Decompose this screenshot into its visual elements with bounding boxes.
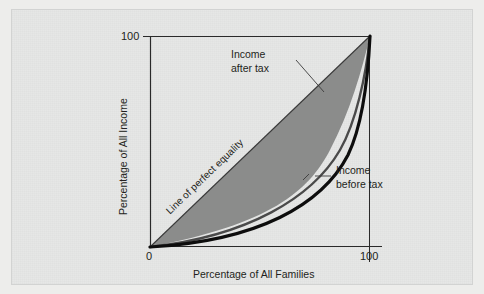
x-axis-title: Percentage of All Families — [193, 268, 314, 280]
y-axis-tick-100: 100 — [121, 30, 139, 42]
after-tax-leader-line — [296, 60, 324, 92]
x-axis-tick-100: 100 — [360, 250, 378, 262]
x-axis-tick-0: 0 — [146, 250, 152, 262]
lorenz-curve-figure: 100 0 100 Percentage of All Income Perce… — [0, 0, 484, 294]
income-after-tax-label-line1: Income — [231, 48, 265, 60]
income-before-tax-label-line2: before tax — [336, 178, 383, 190]
income-after-tax-label-line2: after tax — [231, 62, 269, 74]
income-before-tax-label-line1: Income — [336, 164, 370, 176]
y-axis-title: Percentage of All Income — [117, 98, 129, 215]
